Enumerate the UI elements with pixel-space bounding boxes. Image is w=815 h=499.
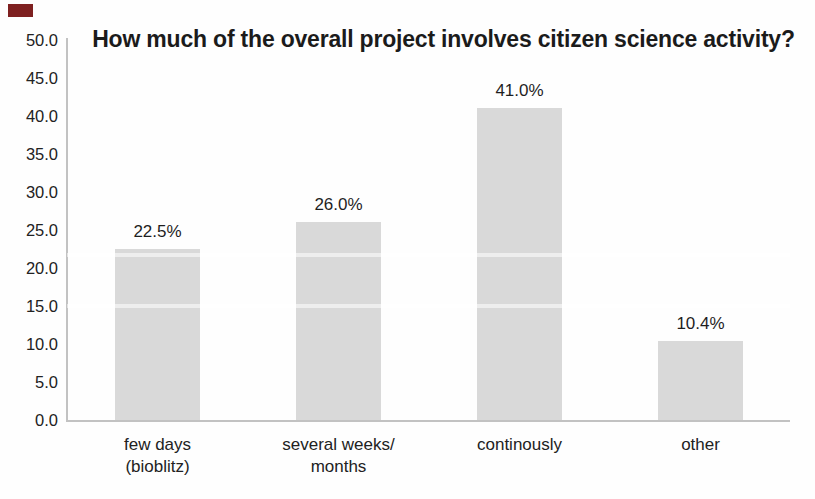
y-tick-label: 15.0	[8, 296, 58, 316]
y-tick-label: 5.0	[8, 372, 58, 392]
x-category-label: other	[610, 434, 791, 456]
y-tick-label: 25.0	[8, 220, 58, 240]
x-category-label-line: (bioblitz)	[67, 456, 248, 478]
x-category-label-line: continously	[429, 434, 610, 456]
y-tick-label: 40.0	[8, 106, 58, 126]
bar-4	[658, 341, 743, 420]
y-tick-label: 50.0	[8, 30, 58, 50]
x-category-label-line: few days	[67, 434, 248, 456]
x-category-label-line: other	[610, 434, 791, 456]
y-tick-label: 30.0	[8, 182, 58, 202]
chart-title: How much of the overall project involves…	[78, 26, 809, 53]
y-tick-label: 35.0	[8, 144, 58, 164]
x-category-label-line: several weeks/	[248, 434, 429, 456]
bar-value-label: 22.5%	[67, 222, 248, 242]
bar-value-label: 41.0%	[429, 81, 610, 101]
y-tick-label: 10.0	[8, 334, 58, 354]
y-tick-label: 20.0	[8, 258, 58, 278]
bar-2	[296, 222, 381, 420]
x-category-label: continously	[429, 434, 610, 456]
bar-1	[115, 249, 200, 420]
y-tick-label: 45.0	[8, 68, 58, 88]
bar-value-label: 26.0%	[248, 195, 429, 215]
x-category-label: few days(bioblitz)	[67, 434, 248, 478]
bar-3	[477, 108, 562, 420]
y-tick-label: 0.0	[8, 410, 58, 430]
bar-chart-figure: How much of the overall project involves…	[0, 0, 815, 499]
bar-value-label: 10.4%	[610, 314, 791, 334]
x-axis-line	[66, 420, 790, 422]
x-category-label-line: months	[248, 456, 429, 478]
x-category-label: several weeks/months	[248, 434, 429, 478]
scan-artifact-mark	[8, 4, 33, 17]
